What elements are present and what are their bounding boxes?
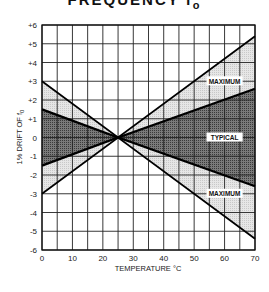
x-axis-label: TEMPERATURE °C xyxy=(115,264,182,273)
annotation-maximum: MAXIMUM xyxy=(209,78,241,85)
y-tick-label: -3 xyxy=(30,190,38,199)
y-axis-label: 1% DRIFT OF f0 xyxy=(15,109,25,165)
x-tick-label: 60 xyxy=(220,254,229,263)
y-tick-label: +6 xyxy=(28,21,38,30)
x-tick-label: 10 xyxy=(68,254,77,263)
annotation-maximum: MAXIMUM xyxy=(209,190,241,197)
y-tick-label: -5 xyxy=(30,227,38,236)
y-tick-label: +2 xyxy=(28,96,38,105)
annotation-typical: TYPICAL xyxy=(211,134,239,141)
y-tick-label: -2 xyxy=(30,171,38,180)
y-tick-label: +3 xyxy=(28,77,38,86)
drift-chart: +6+5+4+3+2+10-1-2-3-4-5-6010203040506070… xyxy=(0,0,269,292)
y-tick-label: +5 xyxy=(28,40,38,49)
x-tick-label: 20 xyxy=(98,254,107,263)
y-tick-label: 0 xyxy=(33,134,38,143)
x-tick-label: 70 xyxy=(251,254,260,263)
x-tick-label: 50 xyxy=(190,254,199,263)
y-tick-label: -1 xyxy=(30,152,38,161)
x-tick-label: 40 xyxy=(159,254,168,263)
x-tick-label: 30 xyxy=(129,254,138,263)
y-tick-label: +1 xyxy=(28,115,38,124)
y-tick-label: -4 xyxy=(30,209,38,218)
y-tick-label: -6 xyxy=(30,246,38,255)
y-tick-label: +4 xyxy=(28,59,38,68)
x-tick-label: 0 xyxy=(40,254,45,263)
